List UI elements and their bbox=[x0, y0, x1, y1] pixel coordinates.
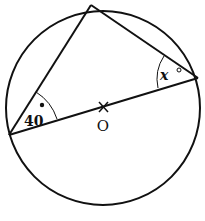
geometry-diagram: O 40 x bbox=[0, 0, 205, 221]
chord-top-to-right bbox=[91, 5, 198, 78]
chord-left-to-top bbox=[9, 5, 91, 135]
angle-label-left: 40 bbox=[24, 113, 44, 129]
degree-symbol-right bbox=[177, 68, 181, 72]
angle-label-right: x bbox=[159, 67, 169, 83]
center-label: O bbox=[97, 117, 109, 135]
degree-symbol-left bbox=[40, 103, 44, 107]
